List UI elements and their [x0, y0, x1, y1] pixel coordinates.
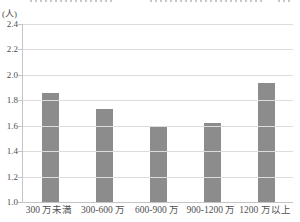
cropped-text-remnant	[278, 0, 292, 2]
bar	[150, 126, 167, 202]
x-axis-category-label: 300-600 万	[76, 206, 130, 216]
bar-chart: (人) 2.42.22.01.81.61.41.21.0 300 万未満300-…	[0, 0, 300, 222]
y-axis-tick	[18, 49, 22, 50]
y-axis-tick-label: 2.2	[7, 45, 18, 54]
y-axis-tick	[18, 202, 22, 203]
bars-container	[23, 24, 293, 202]
plot-area	[22, 24, 293, 203]
x-axis-category-label: 600-900 万	[130, 206, 184, 216]
y-axis-tick-label: 1.2	[7, 172, 18, 181]
bar	[96, 109, 113, 202]
gridline	[23, 24, 293, 25]
bar	[42, 93, 59, 202]
x-axis-category-label: 900-1200 万	[184, 206, 238, 216]
bar-slot	[23, 24, 77, 202]
cropped-text-remnant	[150, 0, 262, 2]
gridline	[23, 126, 293, 127]
y-axis-tick-label: 2.4	[7, 20, 18, 29]
gridline	[23, 49, 293, 50]
bar	[204, 123, 221, 202]
y-axis-tick-label: 2.0	[7, 70, 18, 79]
gridline	[23, 100, 293, 101]
y-axis-tick-label: 1.8	[7, 96, 18, 105]
y-axis-tick	[18, 126, 22, 127]
y-axis-tick-label: 1.4	[7, 147, 18, 156]
bar-slot	[185, 24, 239, 202]
x-axis-category-label: 300 万未満	[22, 206, 76, 216]
y-axis-tick	[18, 100, 22, 101]
bar-slot	[239, 24, 293, 202]
x-axis-labels: 300 万未満300-600 万600-900 万900-1200 万1200 …	[22, 206, 292, 216]
x-axis-category-label: 1200 万以上	[238, 206, 292, 216]
bar-slot	[131, 24, 185, 202]
cropped-text-remnant	[30, 0, 114, 2]
gridline	[23, 151, 293, 152]
y-axis-tick	[18, 177, 22, 178]
gridline	[23, 75, 293, 76]
y-axis-tick-label: 1.0	[7, 198, 18, 207]
bar-slot	[77, 24, 131, 202]
y-axis-tick	[18, 151, 22, 152]
y-axis-tick	[18, 75, 22, 76]
y-axis-labels: 2.42.22.01.81.61.41.21.0	[0, 24, 18, 202]
y-axis-tick-label: 1.6	[7, 121, 18, 130]
y-axis-tick	[18, 24, 22, 25]
gridline	[23, 177, 293, 178]
